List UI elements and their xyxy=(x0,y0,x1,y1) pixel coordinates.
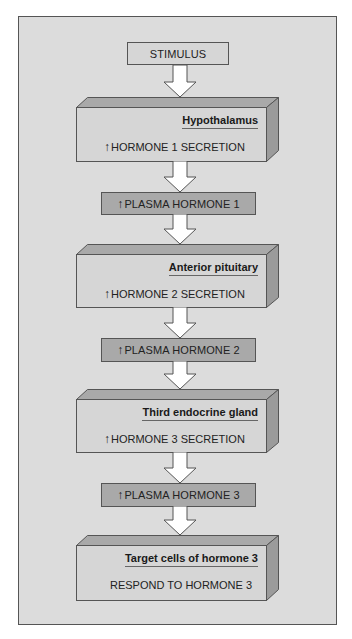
block-title: Third endocrine gland xyxy=(142,406,258,421)
anterior-pituitary-block: Anterior pituitary ↑HORMONE 2 SECRETION xyxy=(76,244,279,309)
third-endocrine-gland-block: Third endocrine gland ↑HORMONE 3 SECRETI… xyxy=(76,389,279,454)
plasma-hormone-3-box: ↑PLASMA HORMONE 3 xyxy=(101,483,256,507)
down-arrow-icon xyxy=(163,361,197,390)
plasma-hormone-1-box: ↑PLASMA HORMONE 1 xyxy=(101,192,256,215)
block-title: Target cells of hormone 3 xyxy=(125,552,258,567)
up-arrow-icon: ↑ xyxy=(104,287,110,301)
block-text: ↑HORMONE 1 SECRETION xyxy=(104,140,245,154)
plasma-hormone-2-box: ↑PLASMA HORMONE 2 xyxy=(101,338,256,362)
up-arrow-icon: ↑ xyxy=(117,197,123,211)
down-arrow-icon xyxy=(163,307,197,339)
down-arrow-icon xyxy=(163,65,197,98)
stimulus-label: STIMULUS xyxy=(150,48,206,60)
up-arrow-icon: ↑ xyxy=(104,432,110,446)
down-arrow-icon xyxy=(163,161,197,193)
up-arrow-icon: ↑ xyxy=(104,140,110,154)
target-cells-block: Target cells of hormone 3 RESPOND TO HOR… xyxy=(76,535,279,601)
block-text: ↑HORMONE 3 SECRETION xyxy=(104,432,245,446)
block-text: RESPOND TO HORMONE 3 xyxy=(110,579,252,591)
block-title: Anterior pituitary xyxy=(169,261,258,276)
block-text: ↑HORMONE 2 SECRETION xyxy=(104,287,245,301)
up-arrow-icon: ↑ xyxy=(117,343,123,357)
down-arrow-icon xyxy=(163,452,197,484)
hypothalamus-block: Hypothalamus ↑HORMONE 1 SECRETION xyxy=(76,97,279,162)
down-arrow-icon xyxy=(163,506,197,536)
down-arrow-icon xyxy=(163,214,197,245)
up-arrow-icon: ↑ xyxy=(117,488,123,502)
stimulus-box: STIMULUS xyxy=(127,42,229,65)
block-title: Hypothalamus xyxy=(182,114,258,129)
